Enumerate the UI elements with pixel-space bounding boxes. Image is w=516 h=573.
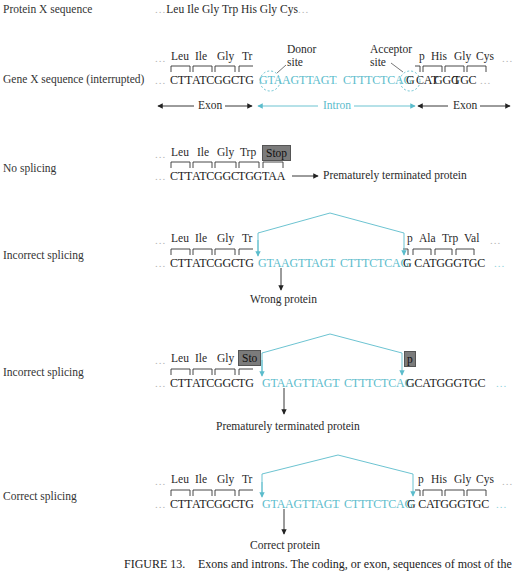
codon-brackets bbox=[171, 162, 283, 168]
splice-line bbox=[258, 213, 404, 255]
codon-brackets bbox=[171, 369, 253, 375]
donor-site-circle bbox=[260, 71, 280, 91]
splice-line bbox=[262, 334, 402, 375]
codon-brackets bbox=[171, 66, 486, 72]
codon-brackets bbox=[171, 490, 486, 496]
splice-line bbox=[262, 455, 413, 496]
codon-brackets bbox=[171, 249, 474, 255]
diagram-graphics bbox=[0, 0, 516, 573]
acceptor-site-circle bbox=[400, 71, 420, 91]
